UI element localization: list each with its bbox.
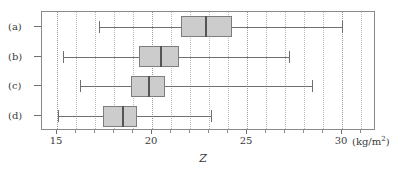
gridline-major [247,12,248,129]
x-axis-title: Z [0,152,406,165]
median-line [122,106,124,127]
y-category-label: (a) [8,20,22,31]
whisker-cap-min [80,80,81,92]
x-tick-minor [303,130,304,133]
gridline-minor [76,12,77,129]
x-tick-label: 15 [50,135,63,146]
y-category-label: (b) [8,50,22,61]
x-tick-label: 25 [240,135,253,146]
whisker-line [80,86,312,87]
x-tick-major [56,130,57,134]
x-tick-minor [94,130,95,133]
gridline-minor [95,12,96,129]
y-category-label: (d) [8,110,22,121]
median-line [205,16,207,37]
x-tick-label: 20 [145,135,158,146]
plot-area [41,11,375,130]
whisker-cap-min [99,21,100,33]
y-category-label: (c) [8,80,21,91]
x-tick-minor [322,130,323,133]
gridline-minor [171,12,172,129]
gridline-major [152,12,153,129]
x-tick-minor [265,130,266,133]
y-tick [34,85,41,86]
y-tick [34,115,41,116]
x-tick-minor [170,130,171,133]
median-line [148,76,150,97]
x-tick-major [246,130,247,134]
x-tick-label: 30 [335,135,348,146]
x-tick-minor [113,130,114,133]
gridline-minor [361,12,362,129]
whisker-cap-max [211,110,212,122]
unit-text: (kg/m [352,136,381,147]
box-rect [103,106,137,127]
whisker-cap-min [63,51,64,63]
unit-close-paren: ) [386,136,390,147]
x-tick-minor [284,130,285,133]
x-tick-major [151,130,152,134]
y-tick [34,26,41,27]
gridline-minor [285,12,286,129]
whisker-cap-min [58,110,59,122]
gridline-minor [304,12,305,129]
x-tick-minor [189,130,190,133]
gridline-minor [266,12,267,129]
whisker-cap-max [312,80,313,92]
x-tick-minor [208,130,209,133]
boxplot-figure: Z (kg/m2) 15202530(a)(b)(c)(d) [0,0,406,175]
gridline-minor [323,12,324,129]
y-tick [34,56,41,57]
x-tick-minor [75,130,76,133]
x-axis-unit-label: (kg/m2) [352,135,390,147]
whisker-cap-max [342,21,343,33]
median-line [160,46,162,67]
whisker-cap-max [289,51,290,63]
x-tick-major [341,130,342,134]
x-tick-minor [360,130,361,133]
x-tick-minor [132,130,133,133]
x-tick-minor [227,130,228,133]
